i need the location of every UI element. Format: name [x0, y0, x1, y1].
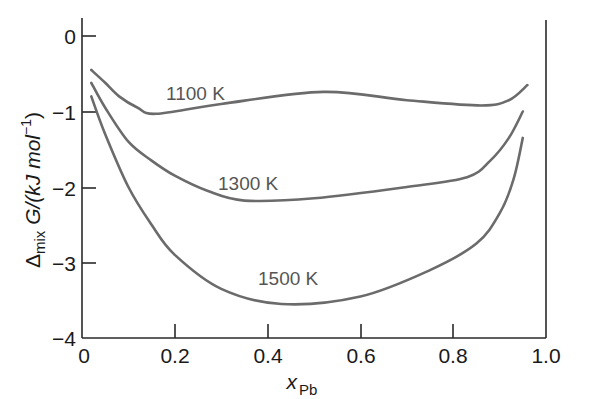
y-tick-minus4: −4 [52, 327, 76, 350]
y-tick-labels: 0 −1 −2 −3 −4 [52, 25, 76, 350]
x-tick-0-8: 0.8 [438, 344, 467, 367]
x-tick-0-6: 0.6 [346, 344, 375, 367]
y-tick-0: 0 [64, 25, 76, 48]
x-tick-0-4: 0.4 [253, 344, 283, 367]
y-ticks [82, 36, 96, 263]
y-tick-minus2: −2 [52, 177, 76, 200]
y-axis-title: Δmix G/(kJ mol−1) [18, 112, 48, 268]
label-1300k: 1300 K [218, 173, 279, 194]
y-tick-minus1: −1 [52, 101, 76, 124]
label-1500k: 1500 K [258, 268, 319, 289]
axes-frame [82, 18, 546, 338]
x-tick-0-2: 0.2 [160, 344, 189, 367]
y-tick-minus3: −3 [52, 252, 76, 275]
curve-1100k [91, 70, 527, 114]
label-1100k: 1100 K [166, 83, 225, 104]
x-tick-labels: 0 0.2 0.4 0.6 0.8 1.0 [78, 344, 560, 367]
x-axis-title: xPb [286, 370, 318, 398]
x-ticks [175, 324, 453, 338]
x-tick-0: 0 [78, 344, 90, 367]
chart-canvas: 0 −1 −2 −3 −4 0 0.2 0.4 0.6 0.8 1.0 xPb … [0, 0, 595, 399]
curve-1300k [91, 83, 523, 201]
x-tick-1-0: 1.0 [531, 344, 560, 367]
